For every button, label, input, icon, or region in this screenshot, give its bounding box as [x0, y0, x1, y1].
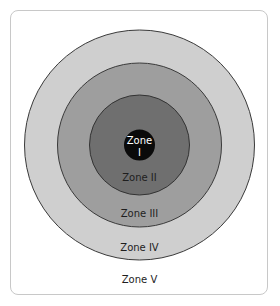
zone-4-label: Zone IV [120, 242, 159, 253]
zone-1-label-line1: Zone [127, 135, 152, 146]
concentric-zone-diagram: Zone I Zone II Zone III Zone IV Zone V [0, 0, 280, 306]
zone-5-label: Zone V [122, 274, 158, 285]
zone-1-label-line2: I [138, 147, 141, 158]
zone-2-label: Zone II [122, 172, 157, 183]
zone-3-label: Zone III [121, 208, 159, 219]
